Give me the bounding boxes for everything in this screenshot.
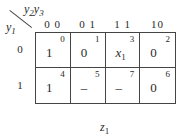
kmap-cell: 0 2 <box>140 33 175 68</box>
row-header: 0 <box>10 43 30 55</box>
column-header: 10 <box>140 18 175 30</box>
kmap-cell: x1 3 <box>106 33 141 68</box>
karnaugh-map-grid: 1 0 0 1 x1 3 0 2 1 4 – 5 – 7 0 6 <box>35 32 176 104</box>
column-header: 0 1 <box>70 18 105 30</box>
row-variable-label: y1 <box>6 20 16 36</box>
kmap-cell: – 7 <box>106 68 141 103</box>
kmap-cell: 1 4 <box>36 68 71 103</box>
output-function-label: z1 <box>100 120 109 136</box>
kmap-cell: 1 0 <box>36 33 71 68</box>
kmap-cell: – 5 <box>71 68 106 103</box>
row-header: 1 <box>10 79 30 91</box>
column-header: 1 1 <box>105 18 140 30</box>
column-header: 0 0 <box>35 18 70 30</box>
kmap-cell: 0 6 <box>140 68 175 103</box>
kmap-cell: 0 1 <box>71 33 106 68</box>
column-variables-label: y2y3 <box>24 2 44 18</box>
